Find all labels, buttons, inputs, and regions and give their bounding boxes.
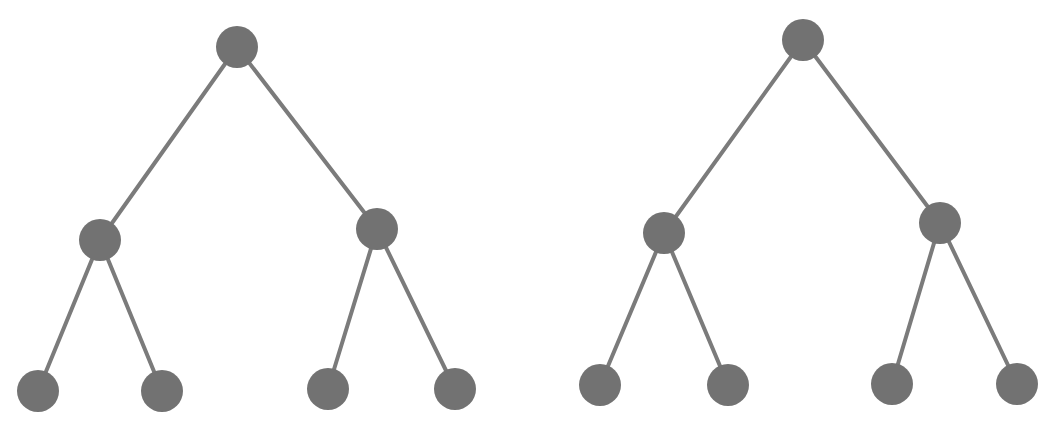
- tree-edge-l-lr: [100, 240, 162, 391]
- tree-node-lr: [141, 370, 183, 412]
- right-tree: [579, 19, 1038, 406]
- tree-edge-r-rl: [328, 229, 377, 389]
- tree-node-ll: [17, 370, 59, 412]
- tree-node-root: [216, 26, 258, 68]
- left-tree: [17, 26, 476, 412]
- tree-edge-r-rr: [940, 223, 1017, 384]
- tree-edge-l-ll: [38, 240, 100, 391]
- tree-edge-r-rl: [892, 223, 940, 384]
- tree-node-l: [79, 219, 121, 261]
- tree-edge-l-ll: [600, 233, 664, 385]
- tree-edge-root-l: [100, 47, 237, 240]
- tree-node-ll: [579, 364, 621, 406]
- tree-edge-root-r: [803, 40, 940, 223]
- tree-edge-l-lr: [664, 233, 728, 385]
- tree-edge-root-r: [237, 47, 377, 229]
- tree-edge-root-l: [664, 40, 803, 233]
- tree-node-rl: [871, 363, 913, 405]
- tree-node-rr: [996, 363, 1038, 405]
- tree-node-rl: [307, 368, 349, 410]
- tree-node-l: [643, 212, 685, 254]
- tree-node-root: [782, 19, 824, 61]
- tree-node-rr: [434, 368, 476, 410]
- tree-edge-r-rr: [377, 229, 455, 389]
- diagram-canvas: [0, 0, 1051, 428]
- tree-node-r: [356, 208, 398, 250]
- tree-node-lr: [707, 364, 749, 406]
- tree-node-r: [919, 202, 961, 244]
